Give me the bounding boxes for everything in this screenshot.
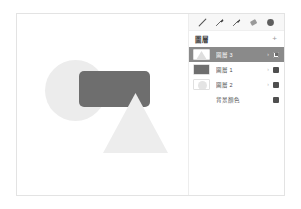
pen-tool-icon[interactable]	[197, 16, 209, 28]
right-side-panel: 圖層 + 圖層 3 ›	[188, 14, 284, 195]
layer-row[interactable]: 圖層 2 ›	[189, 77, 284, 92]
layer-row[interactable]: 圖層 3 ›	[189, 47, 284, 62]
layer-name: 圖層 1	[216, 66, 267, 74]
layer-visibility-checkbox[interactable]	[273, 52, 279, 58]
add-layer-button[interactable]: +	[271, 35, 278, 43]
layer-visibility-checkbox[interactable]	[273, 82, 279, 88]
app-root: 圖層 + 圖層 3 ›	[0, 0, 301, 209]
layer-row[interactable]: 圖層 1 ›	[189, 62, 284, 77]
layers-panel-header: 圖層 +	[189, 31, 284, 47]
drawing-canvas[interactable]	[17, 14, 190, 195]
layer-row[interactable]: 背景顏色	[189, 92, 284, 107]
circle-thumb-icon	[198, 81, 207, 90]
layer-thumbnail	[193, 64, 210, 75]
rectangle-thumb-icon	[194, 65, 209, 74]
layer-name: 圖層 2	[216, 81, 267, 89]
layer-visibility-checkbox[interactable]	[273, 97, 279, 103]
layer-name: 背景顏色	[216, 96, 273, 104]
triangle-thumb-icon	[196, 51, 207, 60]
chevron-right-icon[interactable]: ›	[267, 52, 269, 57]
chevron-right-icon[interactable]: ›	[267, 82, 269, 87]
layers-title: 圖層	[195, 34, 271, 44]
eraser-tool-icon[interactable]	[248, 16, 260, 28]
layer-thumbnail	[193, 79, 210, 90]
tools-toolbar	[189, 14, 284, 31]
layer-name: 圖層 3	[216, 51, 267, 59]
color-swatch-icon[interactable]	[265, 16, 277, 28]
application-window: 圖層 + 圖層 3 ›	[16, 13, 285, 196]
chevron-right-icon[interactable]: ›	[267, 67, 269, 72]
marker-tool-icon[interactable]	[231, 16, 243, 28]
brush-tool-icon[interactable]	[214, 16, 226, 28]
layer-thumbnail	[193, 49, 210, 60]
layer-visibility-checkbox[interactable]	[273, 67, 279, 73]
layer-list: 圖層 3 › 圖層 1 ›	[189, 47, 284, 107]
layer-thumbnail	[193, 94, 210, 105]
